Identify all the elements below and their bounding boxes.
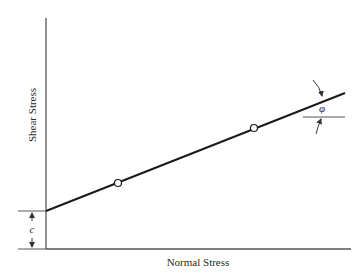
x-axis-label: Normal Stress xyxy=(167,256,230,268)
y-axis-label: Shear Stress xyxy=(26,88,38,142)
lower-angle-arrow xyxy=(316,119,321,134)
test-point-1 xyxy=(115,180,122,187)
upper-angle-arrow xyxy=(313,80,322,96)
failure-envelope-diagram: c φ Shear Stress Normal Stress xyxy=(0,0,363,278)
test-point-2 xyxy=(251,125,258,132)
friction-angle-label: φ xyxy=(319,102,325,114)
failure-envelope-line xyxy=(46,93,345,211)
cohesion-label: c xyxy=(30,223,35,235)
